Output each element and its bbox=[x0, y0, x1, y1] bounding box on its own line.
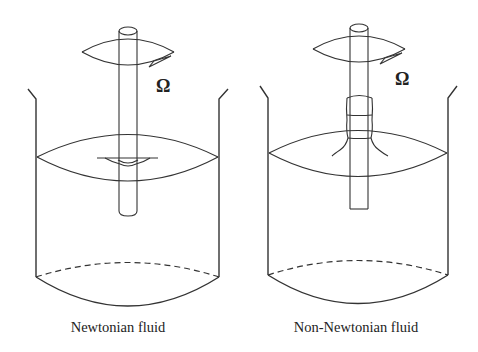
rotation-arrow-left bbox=[82, 39, 174, 67]
rotating-rod-right bbox=[350, 24, 368, 209]
omega-label-left: Ω bbox=[156, 76, 170, 97]
climbing-fluid-right bbox=[332, 96, 388, 157]
rotation-arrow-right bbox=[313, 36, 405, 64]
beaker-right bbox=[260, 86, 457, 304]
beaker-left bbox=[28, 89, 228, 306]
rotating-rod-left bbox=[119, 27, 137, 216]
liquid-surface-left bbox=[37, 135, 218, 182]
non-newtonian-panel bbox=[260, 24, 457, 304]
caption-non-newtonian: Non-Newtonian fluid bbox=[294, 319, 418, 336]
omega-label-right: Ω bbox=[395, 69, 409, 90]
caption-newtonian: Newtonian fluid bbox=[71, 319, 166, 336]
liquid-surface-right bbox=[269, 131, 447, 177]
diagram-canvas bbox=[0, 0, 478, 352]
newtonian-panel bbox=[28, 27, 228, 306]
